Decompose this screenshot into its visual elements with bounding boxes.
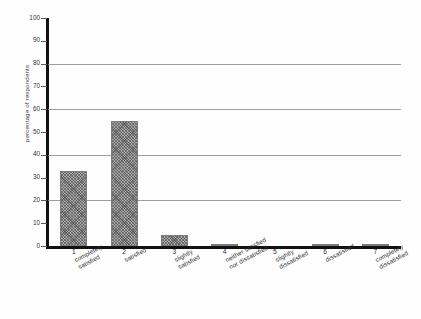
bar bbox=[111, 121, 138, 246]
y-tick-label: 40 bbox=[18, 151, 40, 157]
y-tick-label: 20 bbox=[18, 197, 40, 203]
y-tick-mark bbox=[41, 246, 47, 247]
y-tick-mark bbox=[41, 223, 47, 224]
y-tick-label: 0 bbox=[18, 243, 40, 249]
bar bbox=[211, 244, 238, 246]
plot-area bbox=[46, 18, 401, 246]
x-axis-tick-labels: 1completelysatisfied2satisfied3slightlys… bbox=[46, 248, 401, 319]
bar-chart-figure: percentage of respondents 01020304050607… bbox=[0, 0, 421, 319]
bar bbox=[362, 244, 389, 246]
y-tick-label: 30 bbox=[18, 174, 40, 180]
y-tick-mark bbox=[41, 18, 47, 19]
y-tick-label: 100 bbox=[18, 15, 40, 21]
bar bbox=[60, 171, 87, 246]
y-tick-label: 80 bbox=[18, 60, 40, 66]
y-tick-mark bbox=[41, 64, 47, 65]
y-tick-label: 70 bbox=[18, 83, 40, 89]
y-tick-mark bbox=[41, 132, 47, 133]
y-tick-label: 50 bbox=[18, 129, 40, 135]
y-tick-label: 10 bbox=[18, 220, 40, 226]
y-tick-mark bbox=[41, 200, 47, 201]
y-tick-mark bbox=[41, 155, 47, 156]
y-tick-mark bbox=[41, 178, 47, 179]
bar bbox=[312, 244, 339, 246]
y-tick-label: 90 bbox=[18, 37, 40, 43]
y-tick-mark bbox=[41, 41, 47, 42]
y-axis-tick-labels: 0102030405060708090100 bbox=[16, 18, 40, 246]
bar-series bbox=[49, 18, 401, 246]
bar bbox=[161, 235, 188, 246]
y-tick-mark bbox=[41, 109, 47, 110]
y-tick-mark bbox=[41, 86, 47, 87]
y-tick-label: 60 bbox=[18, 106, 40, 112]
